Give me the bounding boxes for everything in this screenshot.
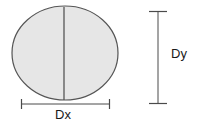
dx-label: Dx: [55, 108, 71, 121]
dy-dimension-line: [149, 11, 167, 104]
diagram-svg: [0, 0, 200, 127]
dy-label: Dy: [171, 47, 187, 60]
ellipse-shape: [12, 6, 118, 100]
figure-canvas: Dx Dy: [0, 0, 200, 127]
